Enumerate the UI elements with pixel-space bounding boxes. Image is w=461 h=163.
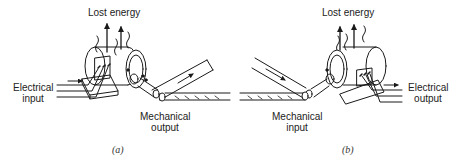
lost-energy-arrows-b xyxy=(337,25,366,52)
shaft-b xyxy=(306,79,329,98)
electrical-input-label-line2: input xyxy=(13,93,53,104)
motor-drawing xyxy=(57,24,230,101)
belt-a xyxy=(152,60,230,101)
electrical-output-label-line2: output xyxy=(408,93,448,104)
electrical-output-label-line1: Electrical xyxy=(408,82,449,93)
mechanical-output-label-line2: output xyxy=(140,122,190,133)
mechanical-input-label-line1: Mechanical xyxy=(272,111,322,122)
generator-drawing xyxy=(240,25,402,104)
lost-energy-label-b: Lost energy xyxy=(322,7,374,18)
generator-body-b xyxy=(326,47,386,104)
diagram-canvas xyxy=(0,0,461,163)
electrical-input-label-line1: Electrical xyxy=(13,82,53,93)
belt-b xyxy=(240,58,308,100)
caption-b: (b) xyxy=(342,144,354,155)
lost-energy-label-a: Lost energy xyxy=(88,7,140,18)
mechanical-input-label-line2: input xyxy=(272,122,322,133)
mechanical-output-label-line1: Mechanical xyxy=(140,111,190,122)
caption-a: (a) xyxy=(112,144,124,155)
